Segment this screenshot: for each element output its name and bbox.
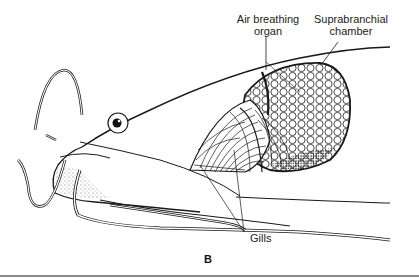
label-air-breathing-organ: Air breathing organ xyxy=(226,13,310,37)
eye-icon xyxy=(108,113,128,133)
label-gills: Gills xyxy=(250,232,271,244)
bottom-rule xyxy=(0,275,419,277)
panel-label: B xyxy=(204,253,212,265)
label-line: organ xyxy=(226,25,310,37)
label-line: Air breathing xyxy=(226,13,310,25)
label-suprabranchial-chamber: Suprabranchial chamber xyxy=(306,13,396,37)
label-line: chamber xyxy=(306,25,396,37)
mandibular-barbel-2 xyxy=(100,200,290,226)
catfish-diagram xyxy=(0,0,419,280)
body-ventral-outline xyxy=(236,197,390,203)
label-line: Suprabranchial xyxy=(306,13,396,25)
